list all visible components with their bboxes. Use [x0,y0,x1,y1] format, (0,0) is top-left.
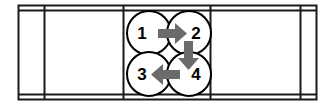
arrow-4-to-3-shaft [163,70,180,79]
arrow-1-to-2-shaft [158,29,175,38]
circle-4-label: 4 [191,65,201,84]
diagram-background [0,0,335,107]
arrow-2-to-4-shaft [184,41,193,58]
circle-1-label: 1 [137,24,146,43]
circle-2-label: 2 [191,24,200,43]
diagram-canvas: 1 2 3 4 [0,0,335,107]
diagram-root: 1 2 3 4 [0,0,335,107]
circle-3-label: 3 [137,65,146,84]
